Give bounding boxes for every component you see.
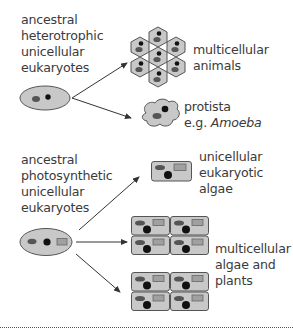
label-line: algae and: [215, 257, 291, 273]
unicellular-algae-label: unicellular eukaryotic algae: [199, 149, 263, 197]
label-line: eukaryotes: [21, 200, 113, 216]
label-line: eukaryotic: [199, 165, 263, 181]
label-line: plants: [215, 273, 291, 289]
example-prefix: e.g.: [184, 115, 211, 130]
multicellular-plants-label: multicellular algae and plants: [215, 241, 291, 289]
photosynthetic-ancestor-cell: [20, 229, 72, 256]
photosynthetic-ancestor-label: ancestral photosynthetic unicellular euk…: [21, 152, 113, 216]
label-line: algae: [199, 181, 263, 197]
amoeba-icon: [142, 99, 179, 126]
label-line: unicellular: [199, 149, 263, 165]
label-line: ancestral: [21, 152, 113, 168]
label-line: photosynthetic: [21, 168, 113, 184]
heterotrophic-ancestor-label: ancestral heterotrophic unicellular euka…: [21, 12, 103, 76]
label-line: unicellular: [21, 44, 103, 60]
multicellular-algae-block-1: [132, 217, 209, 255]
example-line: e.g. Amoeba: [184, 115, 262, 131]
label-line: eukaryotes: [21, 60, 103, 76]
label-line: unicellular: [21, 184, 113, 200]
arrow-to-protista: [72, 98, 131, 118]
multicellular-animals-icon: [131, 27, 185, 87]
multicellular-algae-block-2: [132, 273, 209, 311]
example-genus: Amoeba: [211, 115, 262, 130]
label-line: ancestral: [21, 12, 103, 28]
label-line: multicellular: [215, 241, 291, 257]
protista-label: protista e.g. Amoeba: [184, 99, 262, 131]
arrow-to-multicellular-plants-2: [76, 254, 120, 292]
label-line: protista: [184, 99, 262, 115]
label-line: multicellular: [193, 42, 269, 58]
multicellular-animals-label: multicellular animals: [193, 42, 269, 74]
dotted-divider: [0, 327, 293, 328]
heterotrophic-ancestor-cell: [20, 86, 70, 110]
unicellular-algae-icon: [152, 162, 192, 182]
label-line: animals: [193, 58, 269, 74]
label-line: heterotrophic: [21, 28, 103, 44]
